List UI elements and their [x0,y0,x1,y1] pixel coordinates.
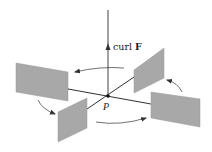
vane-front-left [58,98,87,142]
rotation-arrow-top-icon [75,68,124,73]
point-p-label: P [102,101,109,112]
rotation-arrow-right-icon [167,80,182,92]
vane-back-left [16,63,68,101]
vane-back-right [134,48,164,93]
rotation-arrow-bottom-icon [96,118,146,123]
rotation-arrow-left-icon [38,100,55,114]
curl-axis [106,10,111,96]
curl-arrowhead-icon [106,43,111,50]
vane-front-right [151,92,200,127]
point-p-dot [106,94,110,98]
curl-f-label: curl F [113,41,142,52]
curl-diagram: curl F P [0,0,212,152]
